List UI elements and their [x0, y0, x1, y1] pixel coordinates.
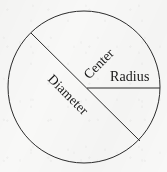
- geometry-canvas: [0, 0, 167, 172]
- circle-outline: [8, 11, 160, 163]
- diameter-line: [31, 33, 140, 141]
- radius-label: Radius: [110, 70, 150, 84]
- circle-diagram-figure: Radius Center Diameter: [0, 0, 167, 172]
